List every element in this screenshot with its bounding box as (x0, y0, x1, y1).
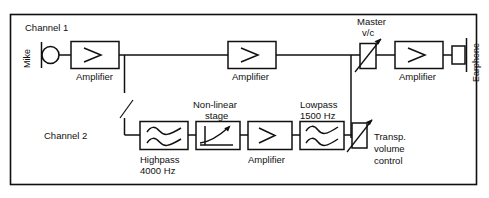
highpass-label-line1: Highpass (140, 154, 180, 165)
microphone-icon (42, 42, 60, 68)
amplifier-2-label: Amplifier (232, 71, 269, 82)
lowpass-filter-block (300, 122, 344, 150)
earphone-label: Earphone (471, 43, 481, 82)
master-vc-label-line2: v/c (362, 27, 374, 38)
transp-vc-label-line1: Transp. (374, 131, 406, 142)
earphone-icon (452, 38, 467, 72)
nonlinear-stage-block (196, 122, 240, 150)
lowpass-label-line1: Lowpass (300, 99, 338, 110)
transp-vc-label-line3: control (374, 155, 403, 166)
transp-vc-label-line2: volume (374, 143, 405, 154)
block-diagram: Channel 1 Mike Amplifier Amplifier (0, 0, 489, 198)
amplifier-1-block (71, 42, 119, 69)
channel-1-label: Channel 1 (25, 22, 68, 33)
lowpass-label-line2: 1500 Hz (300, 110, 336, 121)
amplifier-1-label: Amplifier (76, 71, 113, 82)
amplifier-3-block (248, 122, 292, 150)
channel-2-label: Channel 2 (44, 130, 87, 141)
amplifier-2-block (228, 42, 276, 69)
diagram-border (11, 15, 477, 185)
nonlinear-label-line2: stage (205, 110, 228, 121)
nonlinear-label-line1: Non-linear (193, 99, 237, 110)
amplifier-3-label: Amplifier (248, 154, 285, 165)
master-vc-label-line1: Master (357, 16, 386, 27)
highpass-label-line2: 4000 Hz (140, 165, 176, 176)
output-amplifier-block (395, 42, 443, 69)
figure-root: Channel 1 Mike Amplifier Amplifier (0, 0, 489, 198)
branch-link-tick (120, 100, 133, 118)
output-amplifier-label: Amplifier (399, 71, 436, 82)
highpass-filter-block (140, 122, 188, 150)
mike-label: Mike (22, 49, 32, 68)
